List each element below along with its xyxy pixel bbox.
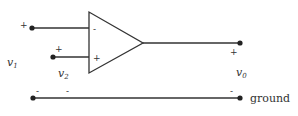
input2-terminal bbox=[50, 54, 55, 59]
input1-minus-sign: - bbox=[36, 86, 39, 96]
output-minus-sign: - bbox=[230, 86, 233, 96]
input2-plus-sign: + bbox=[55, 44, 63, 54]
v2-label: v2 bbox=[58, 67, 69, 81]
output-plus-sign: + bbox=[230, 47, 238, 57]
inverting-input-sign: - bbox=[93, 24, 96, 34]
input2-minus-sign: - bbox=[66, 86, 69, 96]
output-terminal bbox=[237, 40, 242, 45]
ground-label: ground bbox=[250, 92, 290, 105]
input1-plus-sign: + bbox=[20, 20, 28, 30]
ground-right-terminal bbox=[237, 95, 242, 100]
opamp-circuit-diagram: - + + + + - - - v1 v2 v0 ground bbox=[0, 0, 298, 116]
ground-left-terminal bbox=[30, 95, 35, 100]
v1-label: v1 bbox=[7, 56, 18, 70]
opamp-triangle bbox=[89, 12, 143, 73]
v0-label: v0 bbox=[236, 66, 247, 80]
noninverting-input-sign: + bbox=[93, 53, 101, 63]
input1-terminal bbox=[29, 25, 34, 30]
